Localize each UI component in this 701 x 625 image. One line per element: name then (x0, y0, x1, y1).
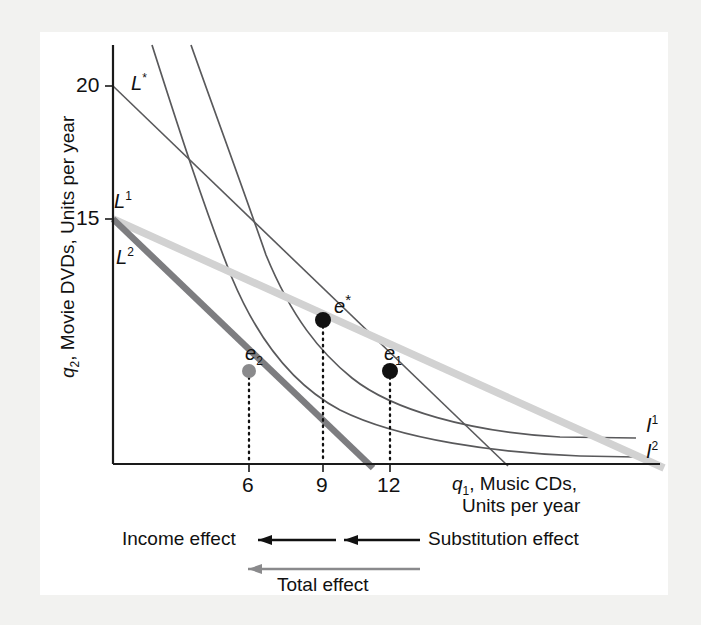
budget-2-sup: 2 (127, 245, 134, 259)
income-effect-arrowhead (258, 535, 272, 545)
budget-line-star-label: L* (131, 72, 147, 94)
total-effect-arrowhead (248, 564, 262, 574)
substitution-effect-arrowhead (344, 535, 358, 545)
y-axis-title-sub: 2 (68, 361, 82, 368)
e1-sub: 1 (395, 354, 402, 368)
e-star-sup: * (345, 291, 351, 308)
income-effect-label: Income effect (122, 529, 236, 549)
budget-line-1-label: L1 (114, 190, 132, 212)
indifference-curve-2 (152, 45, 636, 457)
y-tick-label-20: 20 (76, 74, 99, 96)
y-axis-title-text: , Movie DVDs, Units per year (57, 116, 78, 361)
point-marker-e-star[interactable] (315, 312, 331, 328)
indifference-curve-1 (191, 45, 636, 438)
substitution-effect-label: Substitution effect (428, 529, 579, 549)
x-axis-title-line2: Units per year (462, 496, 580, 516)
e-star-base: e (334, 295, 345, 317)
x-tick-label-6: 6 (242, 474, 254, 496)
figure-background: q2, Movie DVDs, Units per year 20 15 6 9… (0, 0, 701, 625)
x-axis-title: q1, Music CDs, (452, 474, 577, 497)
e1-base: e (384, 342, 395, 364)
e2-base: e (245, 342, 256, 364)
budget-line-2-label: L2 (116, 246, 134, 268)
indifference-curve-1-label: I1 (646, 414, 658, 436)
indiff-1-sup: 1 (652, 413, 659, 427)
y-tick-label-15: 15 (76, 207, 99, 229)
y-axis-title-var: q (57, 367, 78, 378)
x-axis-title-text: , Music CDs, (469, 473, 577, 494)
x-tick-label-9: 9 (316, 474, 328, 496)
point-label-e-star: e* (334, 292, 351, 317)
point-label-e1: e1 (384, 343, 402, 368)
total-effect-label: Total effect (277, 575, 369, 595)
e2-sub: 2 (256, 354, 263, 368)
indiff-2-sup: 2 (652, 439, 659, 453)
x-tick-label-12: 12 (377, 474, 400, 496)
indifference-curve-2-label: I2 (646, 440, 658, 462)
x-axis-title-var: q (452, 473, 463, 494)
budget-line-2 (113, 219, 373, 468)
budget-2-base: L (116, 246, 127, 268)
budget-star-base: L (131, 72, 142, 94)
budget-1-sup: 1 (125, 189, 132, 203)
point-label-e2: e2 (245, 343, 263, 368)
budget-1-base: L (114, 190, 125, 212)
y-axis-title: q2, Movie DVDs, Units per year (58, 116, 81, 378)
budget-star-sup: * (142, 71, 147, 85)
